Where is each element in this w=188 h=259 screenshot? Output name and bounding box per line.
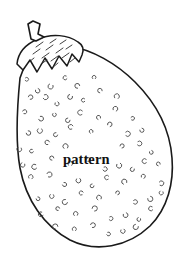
pattern-caption: pattern [63,151,110,167]
artwork-canvas: pattern [0,0,188,259]
eggplant-line-art: pattern [0,0,188,259]
